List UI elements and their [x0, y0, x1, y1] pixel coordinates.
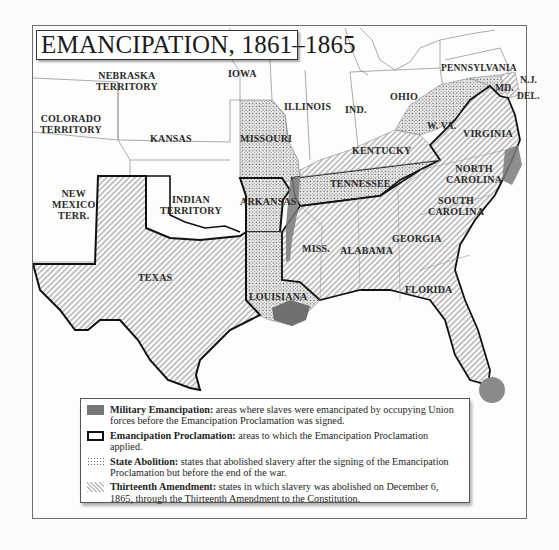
label-pennsylvania: PENNSYLVANIA: [441, 63, 517, 74]
military-florida-keys: [479, 377, 505, 403]
label-north-carolina: NORTHCAROLINA: [446, 163, 502, 185]
label-nebraska-territory: NEBRASKATERRITORY: [96, 70, 158, 92]
legend-term: Military Emancipation:: [110, 404, 213, 415]
legend-item-military-emancipation: Military Emancipation: areas where slave…: [87, 404, 463, 427]
label-west-virginia: W. VA.: [427, 121, 456, 132]
label-colorado-territory: COLORADOTERRITORY: [40, 113, 102, 135]
map-legend: Military Emancipation: areas where slave…: [80, 398, 470, 503]
legend-term: Emancipation Proclamation:: [110, 430, 236, 441]
label-ohio: OHIO: [390, 91, 418, 102]
hatched-swatch-icon: [87, 482, 104, 492]
label-indiana: IND.: [345, 104, 367, 115]
label-delaware: DEL.: [517, 91, 540, 102]
legend-term: Thirteenth Amendment:: [110, 481, 216, 492]
gray-filled-swatch-icon: [87, 405, 104, 415]
map-title: EMANCIPATION, 1861–1865: [41, 31, 356, 59]
legend-item-thirteenth-amendment: Thirteenth Amendment: states in which sl…: [87, 481, 463, 504]
label-maryland: MD.: [495, 83, 514, 94]
label-missouri: MISSOURI: [240, 133, 292, 144]
label-florida: FLORIDA: [405, 284, 453, 295]
label-illinois: ILLINOIS: [284, 101, 331, 112]
label-new-jersey: N.J.: [520, 75, 537, 86]
military-nc-coast: [502, 145, 522, 185]
dotted-swatch-icon: [87, 457, 104, 467]
legend-item-state-abolition: State Abolition: states that abolished s…: [87, 456, 463, 479]
label-iowa: IOWA: [228, 68, 257, 79]
label-texas: TEXAS: [138, 272, 172, 283]
legend-term: State Abolition:: [110, 456, 178, 467]
label-virginia: VIRGINIA: [463, 128, 513, 139]
label-louisiana: LOUISIANA: [249, 291, 307, 302]
label-alabama: ALABAMA: [340, 245, 393, 256]
label-indian-territory: INDIANTERRITORY: [160, 194, 222, 216]
label-new-mexico-territory: NEWMEXICOTERR.: [52, 188, 95, 221]
label-kentucky: KENTUCKY: [352, 145, 411, 156]
label-mississippi: MISS.: [302, 243, 330, 254]
label-arkansas: ARKANSAS: [240, 196, 297, 207]
legend-item-emancipation-proclamation: Emancipation Proclamation: areas to whic…: [87, 430, 463, 453]
label-south-carolina: SOUTHCAROLINA: [428, 195, 484, 217]
map-title-box: EMANCIPATION, 1861–1865: [36, 30, 298, 60]
label-georgia: GEORGIA: [392, 233, 442, 244]
label-kansas: KANSAS: [150, 133, 192, 144]
bold-outline-swatch-icon: [87, 431, 104, 441]
label-tennessee: TENNESSEE: [330, 178, 391, 189]
